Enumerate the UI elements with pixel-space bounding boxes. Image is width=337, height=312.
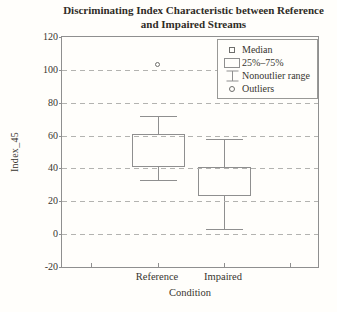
y-tick-label: 20 xyxy=(26,195,58,207)
legend-label-nonoutlier: Nonoutlier range xyxy=(242,70,310,81)
legend-row-iqr: 25%–75% xyxy=(222,56,317,69)
chart-title-line2: and Impaired Streams xyxy=(50,18,337,32)
y-tick-label: 0 xyxy=(26,228,58,240)
y-tick-label: 80 xyxy=(26,97,58,109)
x-axis-label: Condition xyxy=(61,287,319,298)
whisker-lower-cap xyxy=(140,180,177,181)
legend-row-median: Median xyxy=(222,43,317,56)
y-tick-label: 100 xyxy=(26,64,58,76)
legend-label-median: Median xyxy=(242,44,273,55)
iqr-box-legend-icon xyxy=(222,58,242,68)
legend-row-nonoutlier: Nonoutlier range xyxy=(222,69,317,82)
gridline xyxy=(62,201,318,202)
y-tick-label: 120 xyxy=(26,31,58,43)
whisker-legend-icon xyxy=(222,70,242,82)
iqr-box xyxy=(132,134,185,167)
outlier-marker xyxy=(155,62,160,67)
x-tick xyxy=(224,263,225,267)
whisker-upper-stem xyxy=(158,116,159,134)
y-tick-label: 60 xyxy=(26,130,58,142)
x-tick xyxy=(290,263,291,267)
chart-title-line1: Discriminating Index Characteristic betw… xyxy=(50,4,337,18)
x-category-label: Impaired xyxy=(183,271,263,282)
gridline xyxy=(62,234,318,235)
legend: Median 25%–75% Nonoutlier range xyxy=(217,39,318,99)
gridline xyxy=(62,136,318,137)
y-tick-label: -20 xyxy=(26,261,58,273)
outlier-legend-icon xyxy=(222,86,242,92)
median-legend-icon xyxy=(222,47,242,53)
legend-label-outliers: Outliers xyxy=(242,83,274,94)
legend-label-iqr: 25%–75% xyxy=(242,57,284,68)
legend-row-outliers: Outliers xyxy=(222,82,317,95)
boxplot-figure: Discriminating Index Characteristic betw… xyxy=(0,0,337,312)
y-tick xyxy=(59,267,62,268)
x-tick xyxy=(91,263,92,267)
x-tick xyxy=(158,263,159,267)
gridline xyxy=(62,103,318,104)
whisker-lower-cap xyxy=(206,229,243,230)
plot-canvas: Median 25%–75% Nonoutlier range xyxy=(62,37,318,267)
gridline xyxy=(62,168,318,169)
y-tick-label: 40 xyxy=(26,162,58,174)
plot-area: Median 25%–75% Nonoutlier range xyxy=(61,36,319,268)
y-tick xyxy=(59,37,62,38)
iqr-box xyxy=(198,167,251,197)
chart-title: Discriminating Index Characteristic betw… xyxy=(50,4,337,32)
y-axis-label: Index_45 xyxy=(9,82,23,222)
whisker-upper-stem xyxy=(224,139,225,167)
